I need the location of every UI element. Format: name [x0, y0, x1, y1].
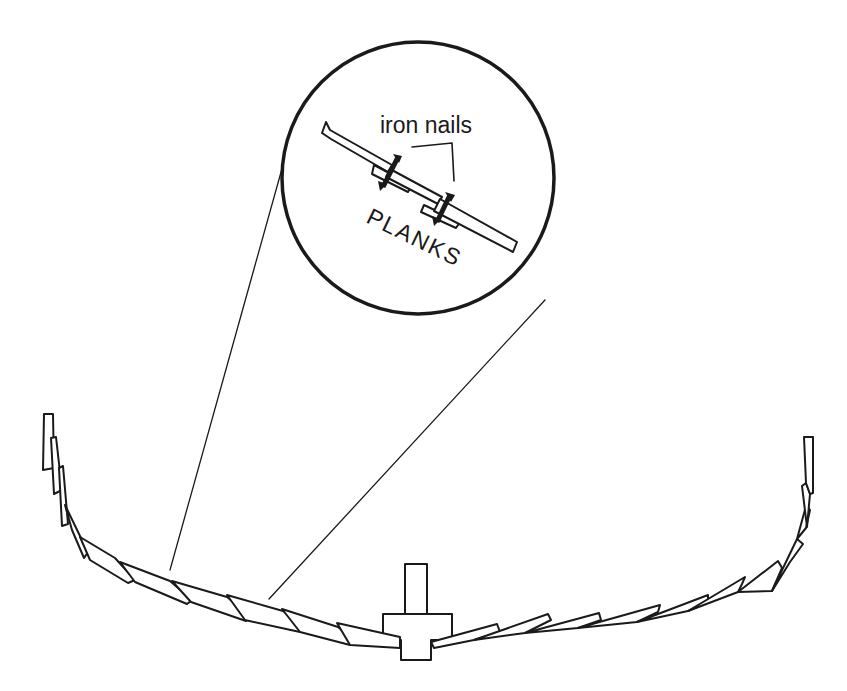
starboard-strake	[688, 577, 745, 611]
starboard-strakes	[431, 437, 813, 648]
inset-magnifier: iron nails PLANKS	[282, 42, 554, 314]
magnification-line-right	[269, 300, 545, 599]
port-strake	[80, 537, 135, 583]
magnification-line-left	[170, 165, 283, 570]
port-strakes	[43, 414, 400, 648]
port-strake	[59, 466, 68, 526]
port-strake	[65, 505, 88, 558]
hull-diagram: iron nails PLANKS	[0, 0, 847, 691]
iron-nails-label: iron nails	[380, 112, 472, 138]
inset-circle	[282, 42, 554, 314]
hull-cross-section	[43, 414, 813, 660]
keel-post	[405, 564, 427, 614]
